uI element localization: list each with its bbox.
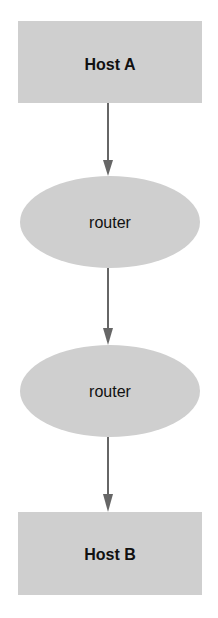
edge-router-1-to-router-2 bbox=[103, 268, 113, 345]
arrowhead-icon bbox=[103, 494, 113, 512]
node-router-1: router bbox=[20, 176, 200, 268]
node-label-host-b: Host B bbox=[84, 546, 136, 563]
node-router-2: router bbox=[20, 345, 200, 437]
node-host-a: Host A bbox=[18, 21, 202, 103]
node-label-router-2: router bbox=[89, 383, 131, 400]
node-label-host-a: Host A bbox=[85, 56, 136, 73]
edge-router-2-to-host-b bbox=[103, 437, 113, 512]
node-label-router-1: router bbox=[89, 214, 131, 231]
arrowhead-icon bbox=[103, 160, 113, 176]
node-host-b: Host B bbox=[18, 512, 202, 595]
edge-host-a-to-router-1 bbox=[103, 103, 113, 176]
arrowhead-icon bbox=[103, 328, 113, 345]
network-diagram: Host A router router Host B bbox=[0, 0, 218, 618]
